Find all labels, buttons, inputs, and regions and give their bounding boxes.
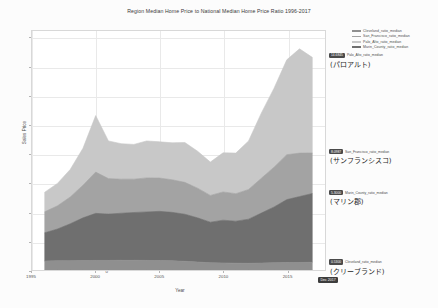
date-badge: Dec 2017 — [318, 277, 338, 283]
chart-canvas: Region Median Home Price to National Med… — [0, 0, 438, 308]
x-tick-label: 1995 — [16, 274, 46, 279]
chart-title: Region Median Home Price to National Med… — [0, 8, 438, 14]
annotation-header: 14.6845Palo_Alto_ratio_median — [329, 53, 383, 58]
annotation-header: 5.3000Marin_County_ratio_median — [329, 190, 388, 195]
annotation-header: 8.0987San_Francisco_ratio_median — [329, 149, 391, 154]
x-tick-label: 2015 — [273, 274, 303, 279]
legend-swatch-icon — [352, 46, 361, 48]
annotation-value-badge: 8.0987 — [329, 149, 343, 154]
legend-item-1[interactable]: San_Francisco_ratio_median — [352, 34, 410, 38]
x-tick-mark — [95, 271, 96, 273]
legend-item-2[interactable]: Palo_Alto_ratio_median — [352, 40, 410, 44]
annotation-value-badge: 14.6845 — [329, 53, 345, 58]
legend-swatch-icon — [352, 41, 361, 43]
x-tick-mark — [159, 271, 160, 273]
legend-item-label: Palo_Alto_ratio_median — [363, 40, 401, 44]
annotation-series-label: Marin_County_ratio_median — [345, 191, 388, 195]
x-tick-mark — [223, 271, 224, 273]
annotation-value-badge: 0.5300 — [329, 259, 343, 264]
annotation-series-label: Cleveland_ratio_median — [345, 260, 382, 264]
annotation-japanese-label: (サンフランシスコ) — [330, 155, 391, 165]
annotation-header: 0.5300Cleveland_ratio_median — [329, 259, 384, 264]
x-tick-mark — [31, 271, 32, 273]
annotation-2: 5.3000Marin_County_ratio_median(マリン郡) — [329, 190, 388, 206]
legend-item-label: Marin_County_ratio_median — [363, 45, 408, 49]
y-axis-label: Sales Price — [22, 103, 27, 163]
annotation-japanese-label: (クリーブランド) — [330, 266, 384, 276]
legend-item-label: San_Francisco_ratio_median — [363, 34, 410, 38]
x-tick-mark — [288, 271, 289, 273]
x-tick-label: 2005 — [144, 274, 174, 279]
annotation-1: 8.0987San_Francisco_ratio_median(サンフランシス… — [329, 149, 391, 165]
annotation-3: 0.5300Cleveland_ratio_median(クリーブランド) — [329, 259, 384, 275]
annotation-series-label: San_Francisco_ratio_median — [345, 150, 389, 154]
annotation-value-badge: 5.3000 — [329, 190, 343, 195]
chart-legend[interactable]: Cleveland_ratio_medianSan_Francisco_rati… — [352, 29, 410, 49]
legend-swatch-icon — [352, 30, 361, 32]
legend-swatch-icon — [352, 36, 361, 38]
legend-item-0[interactable]: Cleveland_ratio_median — [352, 29, 410, 33]
x-tick-label: 2000 — [80, 274, 110, 279]
legend-item-3[interactable]: Marin_County_ratio_median — [352, 45, 410, 49]
legend-item-label: Cleveland_ratio_median — [363, 29, 402, 33]
plot-area — [31, 30, 326, 271]
annotation-japanese-label: (マリン郡) — [330, 196, 388, 206]
x-axis-label: Year — [0, 288, 360, 293]
x-tick-label: 2010 — [208, 274, 238, 279]
annotation-0: 14.6845Palo_Alto_ratio_median(パロアルト) — [329, 53, 383, 69]
annotation-japanese-label: (パロアルト) — [330, 59, 383, 69]
stacked-area-series — [32, 31, 325, 270]
annotation-series-label: Palo_Alto_ratio_median — [347, 53, 383, 57]
